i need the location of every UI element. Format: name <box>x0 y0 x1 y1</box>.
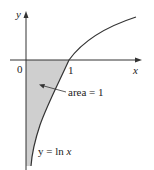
x-axis-label: x <box>132 64 138 76</box>
y-axis-arrow-icon <box>24 11 29 18</box>
ln-graph: y x 0 1 area = 1 y = ln x <box>0 0 154 170</box>
curve-label: y = ln x <box>38 145 72 157</box>
curve-label-prefix: y = ln <box>38 145 67 157</box>
area-annotation: area = 1 <box>68 86 104 98</box>
x-axis-arrow-icon <box>135 58 142 63</box>
figure-canvas: y x 0 1 area = 1 y = ln x <box>0 0 154 170</box>
origin-tick-label: 0 <box>17 63 23 75</box>
curve-label-var: x <box>66 145 72 157</box>
one-tick-label: 1 <box>68 64 74 76</box>
y-axis-label: y <box>15 8 21 20</box>
